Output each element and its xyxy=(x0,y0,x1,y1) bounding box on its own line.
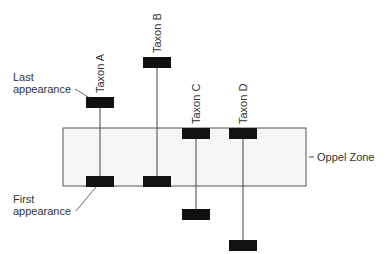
last-appearance-leader xyxy=(75,89,90,98)
last-appearance-label: Lastappearance xyxy=(13,71,71,95)
last-appearance-bar xyxy=(86,97,114,108)
first-appearance-bar xyxy=(182,209,210,220)
range-chart-diagram: Taxon ATaxon BTaxon CTaxon D Oppel Zone … xyxy=(0,0,386,254)
first-appearance-leader xyxy=(76,187,96,211)
first-appearance-bar xyxy=(143,176,171,187)
taxon-label: Taxon C xyxy=(190,84,202,124)
first-appearance-bar xyxy=(229,240,257,251)
last-appearance-bar xyxy=(182,128,210,139)
taxon-label: Taxon D xyxy=(237,84,249,124)
taxon-label: Taxon A xyxy=(94,53,106,93)
taxon-label: Taxon B xyxy=(151,13,163,53)
first-appearance-label: Firstappearance xyxy=(13,193,71,217)
first-appearance-bar xyxy=(86,176,114,187)
last-appearance-bar xyxy=(229,128,257,139)
oppel-zone-label: Oppel Zone xyxy=(317,151,374,163)
last-appearance-bar xyxy=(143,57,171,68)
